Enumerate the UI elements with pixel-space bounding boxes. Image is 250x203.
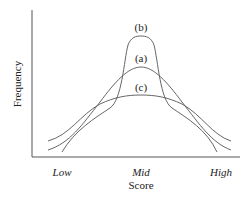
x-axis-label: Score [128,179,153,191]
x-tick-low: Low [52,166,73,178]
distribution-chart: (b) (a) (c) Frequency Low Mid High Score [0,0,250,203]
curve-a-label: (a) [135,52,148,65]
curve-a [48,67,231,150]
curve-c-label: (c) [135,81,148,94]
curve-b-label: (b) [135,21,148,34]
x-tick-mid: Mid [131,166,150,178]
x-tick-high: High [209,166,233,178]
y-axis-label: Frequency [11,60,23,107]
